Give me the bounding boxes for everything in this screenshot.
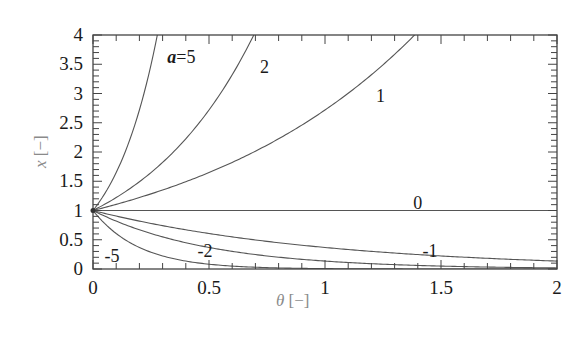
curve-label-a--5: -5 bbox=[105, 246, 120, 266]
ticks-layer bbox=[93, 35, 557, 269]
y-axis-label: x [−] bbox=[31, 135, 50, 169]
y-tick-label: 4 bbox=[74, 24, 84, 45]
x-tick-label: 1.5 bbox=[429, 277, 453, 298]
curve-label-a-2: 2 bbox=[260, 57, 269, 77]
curve-label-a-1: 1 bbox=[376, 86, 385, 106]
curve-label-a--2: -2 bbox=[197, 241, 212, 261]
curve-label-a-5: a=5 bbox=[167, 47, 195, 67]
x-tick-label: 0 bbox=[88, 277, 98, 298]
x-tick-label: 2 bbox=[552, 277, 562, 298]
origin-point bbox=[91, 208, 96, 213]
series-line-a--2 bbox=[93, 211, 557, 268]
curve-label-a--1: -1 bbox=[422, 241, 437, 261]
curve-label-a-0: 0 bbox=[413, 193, 422, 213]
tick-labels-layer: 00.511.5200.511.522.533.54 bbox=[59, 24, 562, 298]
series-line-a-5 bbox=[93, 0, 167, 211]
y-tick-label: 1 bbox=[74, 200, 84, 221]
y-tick-label: 2.5 bbox=[59, 112, 83, 133]
curve-labels-layer: a=5210-1-2-5 bbox=[105, 47, 438, 265]
chart: 00.511.5200.511.522.533.54 a=5210-1-2-5 … bbox=[0, 0, 583, 340]
y-axis-label-unit: [−] bbox=[31, 135, 50, 160]
x-axis-label-var: θ bbox=[276, 291, 284, 310]
y-tick-label: 2 bbox=[74, 141, 84, 162]
series-line-a-1 bbox=[93, 0, 457, 211]
x-tick-label: 1 bbox=[320, 277, 330, 298]
y-tick-label: 0 bbox=[74, 258, 84, 279]
x-axis-label-unit: [−] bbox=[284, 291, 309, 310]
x-tick-label: 0.5 bbox=[197, 277, 221, 298]
series-line-a-2 bbox=[93, 0, 276, 211]
series-line-a--1 bbox=[93, 211, 557, 262]
plot-frame bbox=[93, 35, 557, 269]
y-tick-label: 0.5 bbox=[59, 229, 83, 250]
y-tick-label: 3.5 bbox=[59, 53, 83, 74]
x-axis-label: θ [−] bbox=[276, 291, 310, 310]
y-tick-label: 3 bbox=[74, 83, 84, 104]
y-tick-label: 1.5 bbox=[59, 170, 83, 191]
